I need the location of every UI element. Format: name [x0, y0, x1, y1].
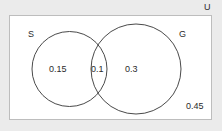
value-outside-sets: 0.45	[186, 101, 204, 111]
venn-circles-svg	[0, 0, 222, 131]
value-intersection: 0.1	[91, 64, 104, 74]
set-label-g: G	[179, 29, 186, 39]
venn-diagram-figure: U S G 0.15 0.1 0.3 0.45	[0, 0, 222, 131]
set-label-s: S	[28, 29, 34, 39]
value-g-only: 0.3	[125, 64, 138, 74]
universal-set-label: U	[204, 2, 211, 12]
value-s-only: 0.15	[49, 64, 67, 74]
